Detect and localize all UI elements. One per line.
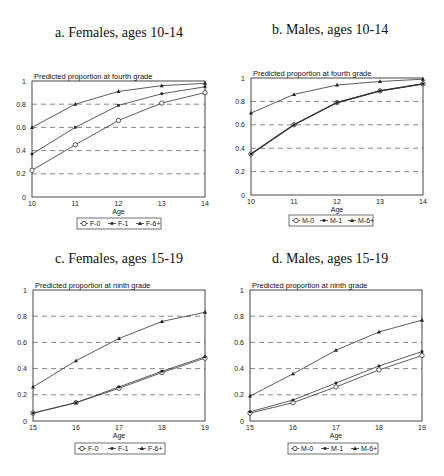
series-f-1 — [32, 356, 207, 415]
open-circle-marker — [73, 143, 77, 147]
y-tick-label: 0.8 — [17, 313, 27, 320]
small-dot-marker — [335, 382, 338, 385]
series-line — [33, 358, 205, 413]
legend-label: M-1 — [331, 445, 343, 452]
legend-label: F-1 — [118, 220, 129, 227]
open-circle-marker — [116, 118, 120, 122]
x-tick-label: 10 — [28, 200, 36, 207]
charts-canvas: 00.20.40.60.811011121314AgePredicted pro… — [0, 0, 444, 476]
series-f-0 — [30, 90, 207, 172]
chart-panel-a: 00.20.40.60.811011121314AgePredicted pro… — [16, 72, 209, 229]
x-tick-label: 15 — [29, 424, 37, 431]
series-m-6plus — [249, 77, 425, 115]
x-tick-label: 14 — [201, 200, 209, 207]
small-dot-marker — [31, 153, 34, 156]
plot-area — [250, 290, 422, 421]
legend-label: F-1 — [118, 445, 129, 452]
x-tick-label: 14 — [419, 198, 427, 205]
triangle-marker — [203, 310, 207, 314]
x-axis-label: Age — [113, 432, 126, 440]
legend-label: M-0 — [301, 445, 313, 452]
y-axis-label: Predicted proportion at fourth grade — [253, 69, 371, 78]
y-axis-label: Predicted proportion at ninth grade — [35, 281, 151, 290]
small-dot-marker — [118, 386, 121, 389]
legend-label: F-6+ — [148, 445, 163, 452]
open-circle-marker — [377, 368, 381, 372]
series-line — [33, 357, 205, 413]
legend-small-dot-icon — [323, 219, 326, 222]
x-axis-label: Age — [331, 206, 344, 214]
x-tick-label: 19 — [201, 424, 209, 431]
y-tick-label: 0.4 — [234, 365, 244, 372]
x-axis-label: Age — [112, 208, 125, 216]
x-tick-label: 16 — [289, 424, 297, 431]
y-tick-label: 1 — [241, 75, 245, 82]
y-tick-label: 0.2 — [235, 168, 245, 175]
legend-open-circle-icon — [293, 446, 297, 450]
legend-label: M-6+ — [358, 217, 374, 224]
x-tick-label: 10 — [247, 198, 255, 205]
y-tick-label: 1 — [22, 78, 26, 85]
open-circle-marker — [30, 168, 34, 172]
chart-panel-b: 00.20.40.60.811011121314AgePredicted pro… — [235, 69, 427, 226]
triangle-marker — [31, 385, 35, 389]
triangle-marker — [421, 77, 425, 81]
y-tick-label: 0.8 — [235, 98, 245, 105]
series-line — [33, 312, 205, 387]
x-tick-label: 18 — [375, 424, 383, 431]
legend-label: F-0 — [90, 220, 101, 227]
chart-panel-d: 00.20.40.60.811516171819AgePredicted pro… — [234, 281, 426, 454]
small-dot-marker — [32, 412, 35, 415]
y-tick-label: 0.4 — [16, 147, 26, 154]
legend: F-0F-1F-6+ — [77, 218, 161, 229]
x-tick-label: 12 — [115, 200, 123, 207]
small-dot-marker — [292, 399, 295, 402]
x-tick-label: 13 — [376, 198, 384, 205]
small-dot-marker — [75, 401, 78, 404]
small-dot-marker — [378, 365, 381, 368]
open-circle-marker — [203, 90, 207, 94]
series-line — [250, 352, 422, 412]
y-tick-label: 0.4 — [235, 145, 245, 152]
y-tick-label: 0.2 — [17, 391, 27, 398]
y-tick-label: 0.6 — [235, 121, 245, 128]
series-f-6plus — [31, 310, 207, 388]
plot-area — [32, 81, 205, 197]
small-dot-marker — [379, 90, 382, 93]
y-tick-label: 1 — [23, 287, 27, 294]
small-dot-marker — [336, 101, 339, 104]
y-tick-label: 0 — [241, 192, 245, 199]
legend-small-dot-icon — [324, 447, 327, 450]
legend: M-0M-1M-6+ — [288, 443, 378, 454]
series-m-1 — [249, 350, 424, 413]
legend-entry: M-0 — [292, 217, 314, 224]
small-dot-marker — [421, 350, 424, 353]
small-dot-marker — [117, 104, 120, 107]
y-tick-label: 0.4 — [17, 365, 27, 372]
x-tick-label: 15 — [246, 424, 254, 431]
legend-entry: M-0 — [291, 445, 313, 452]
y-axis-label: Predicted proportion at fourth grade — [34, 72, 152, 81]
small-dot-marker — [250, 153, 253, 156]
open-circle-marker — [420, 353, 424, 357]
series-line — [251, 84, 423, 154]
triangle-marker — [203, 81, 207, 85]
plot-area — [33, 290, 205, 421]
legend-label: M-0 — [302, 217, 314, 224]
y-tick-label: 0.6 — [234, 339, 244, 346]
small-dot-marker — [293, 124, 296, 127]
small-dot-marker — [204, 86, 207, 89]
legend-open-circle-icon — [80, 446, 84, 450]
legend-small-dot-icon — [111, 447, 114, 450]
small-dot-marker — [249, 411, 252, 414]
x-tick-label: 12 — [333, 198, 341, 205]
triangle-marker — [420, 318, 424, 322]
legend-label: M-6+ — [361, 445, 377, 452]
series-m-1 — [250, 83, 425, 156]
x-axis-label: Age — [330, 432, 343, 440]
y-tick-label: 0.2 — [16, 170, 26, 177]
small-dot-marker — [161, 370, 164, 373]
x-tick-label: 16 — [72, 424, 80, 431]
y-tick-label: 0.8 — [234, 313, 244, 320]
y-tick-label: 0.2 — [234, 391, 244, 398]
